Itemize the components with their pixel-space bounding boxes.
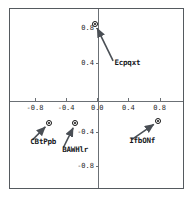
data-point-label: BAWHlr <box>62 146 88 154</box>
data-point-label: Ecpqxt <box>114 59 140 67</box>
data-point-marker <box>92 21 98 27</box>
annotation-arrow <box>97 28 113 60</box>
data-point-label: IfbONf <box>129 137 155 145</box>
plot-area: -0.8-0.40.00.40.8 -0.8-0.40.40.8 EcpqxtC… <box>10 9 183 188</box>
data-point-label: CBtPpb <box>30 138 56 146</box>
annotation-arrow-layer <box>10 9 183 188</box>
scatter-plot-figure: -0.8-0.40.00.40.8 -0.8-0.40.40.8 EcpqxtC… <box>0 0 193 197</box>
